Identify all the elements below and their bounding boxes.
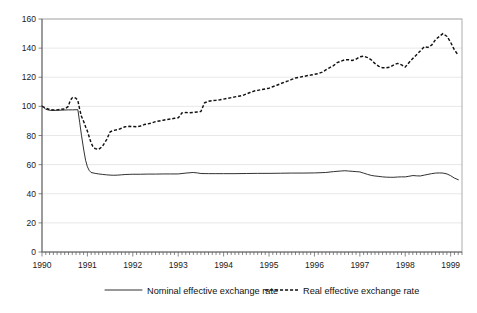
y-tick-label: 160 [22,14,36,24]
x-tick-label: 1992 [123,260,142,270]
x-tick-label: 1998 [396,260,415,270]
y-tick-label: 100 [22,101,36,111]
y-tick-label: 120 [22,72,36,82]
chart-canvas: 020406080100120140160 199019911992199319… [0,0,477,313]
y-axis-ticks [39,19,43,252]
legend-label-real: Real effective exchange rate [303,286,419,296]
y-axis-tick-labels: 020406080100120140160 [22,14,36,257]
x-tick-label: 1997 [350,260,369,270]
x-tick-label: 1994 [214,260,233,270]
y-tick-label: 20 [27,218,37,228]
x-tick-label: 1995 [260,260,279,270]
x-tick-label: 1999 [441,260,460,270]
exchange-rate-chart: 020406080100120140160 199019911992199319… [0,0,477,313]
y-tick-label: 40 [27,189,37,199]
x-tick-label: 1996 [305,260,324,270]
x-minor-ticks [42,252,462,257]
x-axis-tick-labels: 1990199119921993199419951996199719981999 [33,260,461,270]
y-tick-label: 0 [31,247,36,257]
x-tick-label: 1990 [33,260,52,270]
legend-label-nominal: Nominal effective exchange rate [147,286,278,296]
y-tick-label: 80 [27,131,37,141]
legend: Nominal effective exchange rate Real eff… [105,286,419,296]
y-tick-label: 60 [27,160,37,170]
y-tick-label: 140 [22,43,36,53]
x-tick-label: 1993 [169,260,188,270]
x-tick-label: 1991 [78,260,97,270]
